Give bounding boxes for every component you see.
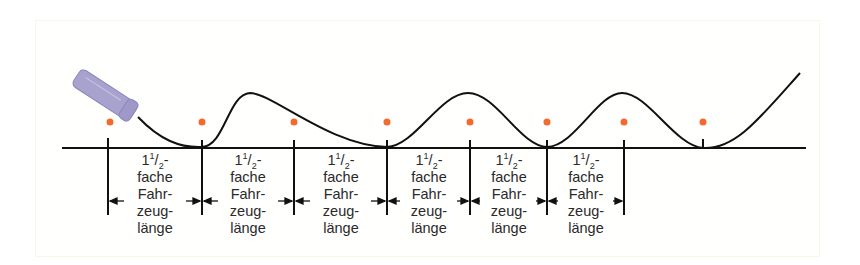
wave-curve	[138, 73, 800, 148]
segment-label: 11/2- fache Fahr- zeug- länge	[389, 152, 469, 237]
segment-label: 11/2- fache Fahr- zeug- länge	[469, 152, 549, 237]
segment-label: 11/2- fache Fahr- zeug- länge	[208, 152, 288, 237]
segment-label: 11/2- fache Fahr- zeug- länge	[115, 152, 195, 237]
segment-label: 11/2- fache Fahr- zeug- länge	[301, 152, 381, 237]
tube-icon	[71, 67, 140, 122]
segment-label: 11/2- fache Fahr- zeug- länge	[546, 152, 626, 237]
marker-dots	[107, 119, 707, 126]
